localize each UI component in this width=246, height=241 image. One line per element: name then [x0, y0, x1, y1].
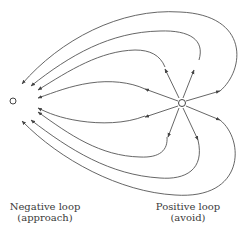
negative-loop-label: Negative loop (approach) [2, 201, 88, 223]
negative-loop-title: Negative loop [2, 201, 88, 212]
arrow-path [22, 120, 235, 195]
arrow-ray [145, 89, 178, 101]
negative-loop-subtitle: (approach) [2, 212, 88, 223]
arrow-path [38, 50, 165, 90]
arrow-ray [186, 106, 220, 120]
arrow-path [31, 31, 200, 86]
negative-loop-node [10, 98, 16, 104]
arrow-path [38, 108, 145, 123]
arrow-path [31, 120, 199, 178]
arrow-path [38, 112, 167, 157]
arrow-ray [186, 91, 220, 101]
arrow-ray [183, 70, 194, 98]
positive-loop-title: Positive loop [148, 201, 228, 212]
arrow-path [38, 82, 145, 98]
arrow-ray [165, 69, 179, 98]
positive-loop-node [179, 100, 186, 107]
positive-loop-subtitle: (avoid) [148, 212, 228, 223]
arrow-ray [183, 108, 198, 140]
positive-loop-label: Positive loop (avoid) [148, 201, 228, 223]
arrow-ray [145, 106, 178, 117]
arrow-ray [168, 108, 179, 137]
arrow-path [22, 12, 237, 91]
